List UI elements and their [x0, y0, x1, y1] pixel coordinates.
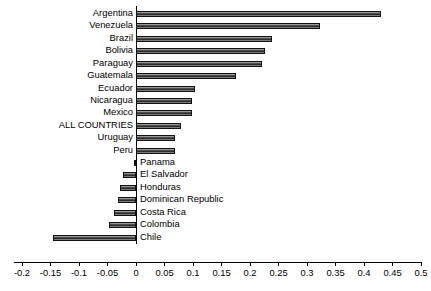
- category-label: Argentina: [0, 7, 133, 19]
- category-label: Guatemala: [0, 69, 133, 81]
- bar: [136, 110, 192, 116]
- x-axis-tick: [50, 262, 51, 266]
- x-axis-tick: [79, 262, 80, 266]
- horizontal-bar-chart: ArgentinaVenezuelaBrazilBoliviaParaguayG…: [0, 0, 431, 291]
- x-axis-tick: [22, 262, 23, 266]
- category-label: Brazil: [0, 32, 133, 44]
- category-label: Uruguay: [0, 131, 133, 143]
- bar: [109, 222, 136, 228]
- x-axis-tick: [421, 262, 422, 266]
- category-label: Dominican Republic: [140, 193, 431, 205]
- x-axis-tick: [278, 262, 279, 266]
- x-axis-tick: [107, 262, 108, 266]
- x-axis-tick: [364, 262, 365, 266]
- category-label: Bolivia: [0, 44, 133, 56]
- category-label: ALL COUNTRIES: [0, 119, 133, 131]
- bar: [136, 61, 262, 67]
- bar: [53, 235, 136, 241]
- category-label: Mexico: [0, 106, 133, 118]
- category-label: El Salvador: [140, 168, 431, 180]
- plot-area: ArgentinaVenezuelaBrazilBoliviaParaguayG…: [0, 0, 431, 262]
- x-axis-tick: [136, 262, 137, 266]
- x-axis-tick: [193, 262, 194, 266]
- bar: [136, 86, 195, 92]
- bar: [136, 123, 181, 129]
- x-axis-tick: [392, 262, 393, 266]
- bar: [114, 210, 136, 216]
- x-axis: -0.2-0.15-0.1-0.0500.050.10.150.20.250.3…: [0, 262, 431, 291]
- bar-row: Chile: [0, 232, 431, 244]
- category-label: Panama: [140, 156, 431, 168]
- bar: [136, 23, 320, 29]
- category-label: Venezuela: [0, 19, 133, 31]
- bar: [123, 172, 136, 178]
- bar: [118, 197, 136, 203]
- category-label: Costa Rica: [140, 206, 431, 218]
- x-axis-tick: [307, 262, 308, 266]
- bar: [136, 73, 236, 79]
- category-label: Nicaragua: [0, 94, 133, 106]
- bar: [134, 160, 136, 166]
- x-axis-line: [14, 262, 421, 263]
- category-label: Honduras: [140, 181, 431, 193]
- bar: [136, 36, 272, 42]
- x-axis-tick: [250, 262, 251, 266]
- x-axis-tick: [164, 262, 165, 266]
- bar: [136, 11, 381, 17]
- category-label: Ecuador: [0, 82, 133, 94]
- bar: [120, 185, 136, 191]
- category-label: Paraguay: [0, 57, 133, 69]
- category-label: Peru: [0, 144, 133, 156]
- bar: [136, 98, 192, 104]
- x-axis-tick: [221, 262, 222, 266]
- x-axis-tick-label: 0.5: [401, 267, 431, 278]
- bar: [136, 148, 175, 154]
- category-label: Colombia: [140, 218, 431, 230]
- category-label: Chile: [140, 231, 431, 243]
- x-axis-tick: [335, 262, 336, 266]
- bar: [136, 48, 265, 54]
- bar: [136, 135, 175, 141]
